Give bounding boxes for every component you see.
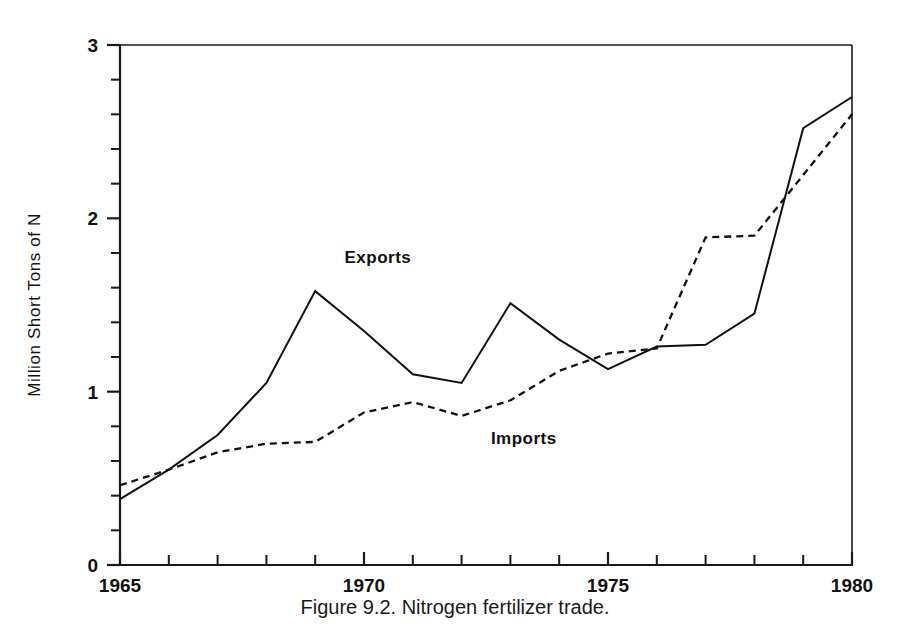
y-axis-tick-label: 1	[87, 382, 98, 403]
plot-frame	[120, 45, 852, 565]
series-line-exports	[120, 97, 852, 499]
series-line-imports	[120, 114, 852, 485]
y-axis-tick-label: 2	[87, 208, 98, 229]
series-label-imports: Imports	[491, 429, 557, 448]
nitrogen-fertilizer-trade-chart: 0123 1965197019751980 ExportsImports Mil…	[0, 0, 915, 641]
x-axis-tick-label: 1975	[587, 575, 630, 596]
x-axis-tick-label: 1970	[343, 575, 385, 596]
y-axis-tick-label: 3	[87, 35, 98, 56]
series-label-exports: Exports	[344, 248, 411, 267]
y-axis-tick-labels: 0123	[87, 35, 98, 576]
y-axis-title: Million Short Tons of N	[25, 213, 44, 397]
figure-caption: Figure 9.2. Nitrogen fertilizer trade.	[300, 596, 609, 618]
y-axis-tick-label: 0	[87, 555, 98, 576]
data-series-group	[120, 97, 852, 499]
x-axis-ticks	[120, 552, 852, 565]
y-axis-ticks	[107, 45, 120, 565]
x-axis-tick-label: 1980	[831, 575, 873, 596]
figure-container: 0123 1965197019751980 ExportsImports Mil…	[0, 0, 915, 641]
x-axis-tick-labels: 1965197019751980	[99, 575, 873, 596]
series-annotation-group: ExportsImports	[344, 248, 556, 447]
x-axis-tick-label: 1965	[99, 575, 142, 596]
